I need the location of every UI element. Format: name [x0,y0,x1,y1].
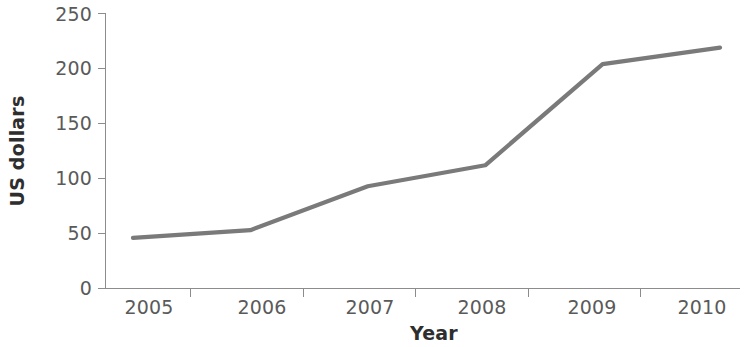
y-tick-label: 50 [67,222,92,244]
line-chart: 0 50 100 150 200 250 2005 2006 2007 2008… [0,0,746,347]
y-tick-label: 150 [55,112,92,134]
x-tick-label: 2008 [457,296,506,318]
chart-background [0,0,746,347]
y-axis-title: US dollars [6,96,28,207]
x-tick-label: 2010 [677,296,726,318]
chart-canvas: 0 50 100 150 200 250 2005 2006 2007 2008… [0,0,746,347]
y-tick-label: 100 [55,167,92,189]
y-tick-label: 0 [80,277,92,299]
x-tick-label: 2007 [345,296,394,318]
y-tick-label: 250 [55,3,92,25]
x-tick-label: 2006 [237,296,286,318]
x-tick-label: 2005 [124,296,173,318]
x-tick-label: 2009 [567,296,616,318]
x-axis-title: Year [409,322,458,344]
y-tick-label: 200 [55,57,92,79]
